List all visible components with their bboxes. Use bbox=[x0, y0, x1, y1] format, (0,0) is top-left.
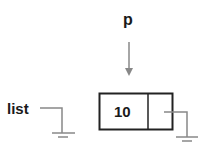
list-null-ground-icon bbox=[40, 108, 75, 137]
next-null-ground-icon bbox=[164, 112, 198, 141]
diagram-canvas bbox=[0, 0, 206, 151]
pointer-p-arrow-icon bbox=[125, 42, 133, 76]
list-node bbox=[100, 93, 173, 130]
